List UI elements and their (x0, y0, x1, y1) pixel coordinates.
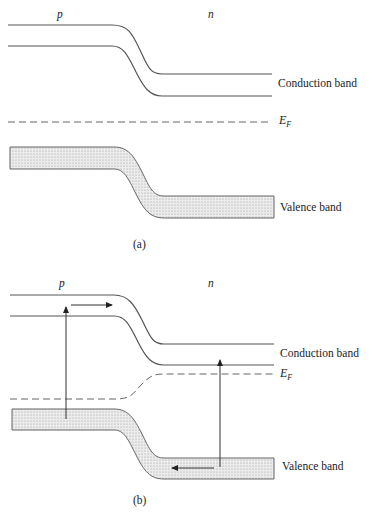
conduction-band-bottom-b (10, 316, 274, 365)
valence-band-a (10, 147, 274, 218)
caption-b: (b) (133, 494, 146, 506)
conduction-band-top-a (8, 25, 272, 74)
p-region-label-b: p (59, 277, 65, 289)
conduction-band-bottom-a (8, 46, 272, 96)
n-region-label-b: n (208, 277, 214, 289)
p-region-label-a: p (57, 8, 63, 20)
fermi-label-a: EF (279, 113, 291, 129)
conduction-band-top-b (10, 295, 274, 344)
fermi-label-b: EF (280, 366, 292, 382)
fermi-level-b (10, 374, 274, 399)
valence-band-label-a: Valence band (280, 201, 342, 213)
valence-band-b (12, 409, 274, 479)
panel-a (8, 25, 274, 218)
caption-a: (a) (133, 238, 146, 250)
n-region-label-a: n (208, 8, 214, 20)
valence-band-label-b: Valence band (282, 460, 344, 472)
conduction-band-label-b: Conduction band (280, 347, 359, 359)
conduction-band-label-a: Conduction band (278, 77, 357, 89)
panel-b (10, 295, 274, 479)
